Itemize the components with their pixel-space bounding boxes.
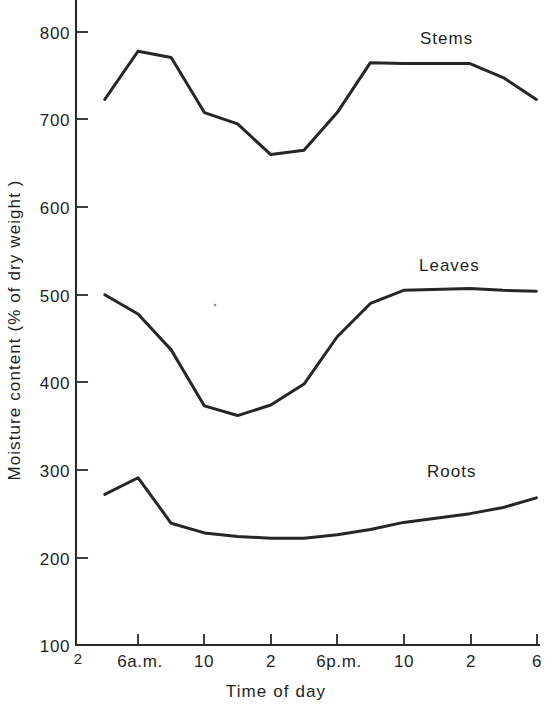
series-line-stems [105,51,537,154]
y-axis-ticks [76,32,88,558]
y-tick-label-700: 700 [40,111,70,130]
series-line-leaves [105,289,537,416]
x-axis-ticks [138,634,537,645]
x-tick-label-10am: 10 [194,652,214,671]
x-tick-label-origin: 2 [74,650,82,667]
y-axis-title: Moisture content (% of dry weight ) [5,179,24,480]
x-tick-label-6am-next: 6 [532,652,542,671]
chart-svg: 800 700 600 500 400 300 200 100 2 6a.m. … [0,0,552,705]
y-tick-label-200: 200 [40,550,70,569]
series-labels: Stems Leaves Roots [419,29,480,481]
y-tick-label-500: 500 [40,287,70,306]
y-tick-label-800: 800 [40,24,70,43]
x-tick-label-10pm: 10 [394,652,414,671]
x-tick-label-2pm: 2 [266,652,276,671]
y-tick-label-600: 600 [40,199,70,218]
series-label-leaves: Leaves [419,256,480,275]
y-tick-label-300: 300 [40,462,70,481]
x-axis-tick-labels: 6a.m. 10 2 6p.m. 10 2 6 [117,652,542,671]
y-tick-label-400: 400 [40,374,70,393]
x-tick-label-6am: 6a.m. [117,652,163,671]
series-label-roots: Roots [427,462,476,481]
scan-speck [214,304,217,307]
x-tick-label-6pm: 6p.m. [316,652,362,671]
moisture-content-chart: 800 700 600 500 400 300 200 100 2 6a.m. … [0,0,552,705]
series-label-stems: Stems [420,29,473,48]
y-axis-tick-labels: 800 700 600 500 400 300 200 100 [40,24,70,656]
y-tick-label-100: 100 [40,637,70,656]
x-tick-label-2am: 2 [466,652,476,671]
series-line-roots [105,478,537,538]
x-axis-title: Time of day [226,682,326,701]
